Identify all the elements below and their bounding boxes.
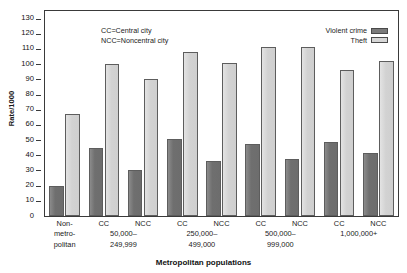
bar-violent-crime [285, 159, 300, 216]
x-axis-range-line: 500,000– [241, 229, 319, 239]
bar-theft [65, 114, 80, 217]
x-axis-category-label: NCC [202, 219, 241, 229]
y-axis-ticks: 1301201101009080706050403020100 [0, 0, 44, 217]
bar-violent-crime [167, 139, 182, 216]
x-axis-range-label: 500,000–999,000 [241, 229, 319, 250]
y-axis-tick-label: 50 [4, 135, 34, 144]
x-axis-range-line: metro- [45, 229, 84, 239]
bar-violent-crime [363, 153, 378, 216]
y-axis-tick: 70 [0, 110, 44, 111]
x-axis-group-categories: Non- [45, 219, 84, 229]
x-axis-category-label: CC [163, 219, 202, 229]
y-axis-tick-mark [36, 95, 41, 96]
y-axis-tick: 130 [0, 19, 44, 20]
x-axis-category-label: NCC [280, 219, 319, 229]
x-axis-group: CCNCC250,000–499,000 [163, 219, 241, 250]
y-axis-tick-mark [36, 140, 41, 141]
x-axis-range-line: 999,000 [241, 240, 319, 250]
x-axis-group-categories: CCNCC [163, 219, 241, 229]
x-axis-range-label: 50,000–249,999 [84, 229, 162, 250]
y-axis-tick-mark [36, 19, 41, 20]
y-axis-tick: 40 [0, 155, 44, 156]
bar-violent-crime [245, 144, 260, 216]
x-axis-range-line: 499,000 [163, 240, 241, 250]
y-axis-tick: 60 [0, 125, 44, 126]
x-axis-group: CCNCC500,000–999,000 [241, 219, 319, 250]
x-axis-group-categories: CCNCC [320, 219, 398, 229]
x-axis-group: CCNCC1,000,000+ [320, 219, 398, 240]
bar-violent-crime [206, 161, 221, 216]
y-axis-tick-mark [36, 170, 41, 171]
x-axis-category-label: CC [241, 219, 280, 229]
chart-figure: Rate/1000 130120110100908070605040302010… [0, 0, 407, 273]
y-axis-tick-mark [36, 186, 41, 187]
y-axis-tick-label: 30 [4, 165, 34, 174]
x-axis-range-label: 250,000–499,000 [163, 229, 241, 250]
x-axis-title: Metropolitan populations [0, 258, 407, 267]
y-axis-tick: 0 [0, 216, 44, 217]
x-axis-group: CCNCC50,000–249,999 [84, 219, 162, 250]
bar-violent-crime [324, 142, 339, 216]
bar-violent-crime [49, 186, 64, 216]
y-axis-tick-mark [36, 110, 41, 111]
bar-theft [379, 61, 394, 216]
y-axis-tick-label: 130 [4, 13, 34, 22]
y-axis-tick: 30 [0, 170, 44, 171]
y-axis-tick-label: 110 [4, 43, 34, 52]
y-axis-tick-label: 80 [4, 89, 34, 98]
x-axis-range-line: 250,000– [163, 229, 241, 239]
y-axis-tick: 20 [0, 186, 44, 187]
y-axis-tick-label: 90 [4, 74, 34, 83]
y-axis-tick-label: 20 [4, 180, 34, 189]
x-axis-category-label: CC [84, 219, 123, 229]
y-axis-tick-label: 120 [4, 28, 34, 37]
y-axis-tick-mark [36, 155, 41, 156]
bar-violent-crime [128, 170, 143, 216]
y-axis-tick-label: 70 [4, 104, 34, 113]
y-axis-tick-label: 40 [4, 150, 34, 159]
y-axis-tick-mark [36, 201, 41, 202]
y-axis-tick-label: 10 [4, 195, 34, 204]
bars-layer [45, 11, 398, 216]
y-axis-tick: 100 [0, 64, 44, 65]
y-axis-tick-mark [36, 79, 41, 80]
y-axis-tick: 110 [0, 49, 44, 50]
y-axis-tick: 90 [0, 79, 44, 80]
bar-theft [301, 47, 316, 216]
bar-theft [340, 70, 355, 216]
bar-violent-crime [89, 148, 104, 216]
y-axis-tick-label: 100 [4, 59, 34, 68]
x-axis-labels: Non-metro-politanCCNCC50,000–249,999CCNC… [45, 219, 398, 259]
y-axis-tick-mark [36, 34, 41, 35]
bar-theft [261, 47, 276, 216]
y-axis-tick: 50 [0, 140, 44, 141]
bar-theft [183, 52, 198, 216]
x-axis-category-label: CC [320, 219, 359, 229]
y-axis-tick: 120 [0, 34, 44, 35]
y-axis-tick-label: 0 [4, 211, 34, 220]
x-axis-group: Non-metro-politan [45, 219, 84, 250]
x-axis-category-label: Non- [45, 219, 84, 229]
y-axis-tick-mark [36, 49, 41, 50]
y-axis-tick-mark [36, 125, 41, 126]
y-axis-tick-mark [36, 64, 41, 65]
x-axis-range-line: 249,999 [84, 240, 162, 250]
bar-theft [222, 63, 237, 216]
bar-theft [144, 79, 159, 216]
x-axis-range-line: politan [45, 240, 84, 250]
x-axis-category-label: NCC [359, 219, 398, 229]
x-axis-range-line: 1,000,000+ [320, 229, 398, 239]
bar-theft [105, 64, 120, 216]
x-axis-range-label: metro-politan [45, 229, 84, 250]
y-axis-tick-label: 60 [4, 119, 34, 128]
y-axis-tick: 10 [0, 201, 44, 202]
x-axis-range-line: 50,000– [84, 229, 162, 239]
x-axis-group-categories: CCNCC [241, 219, 319, 229]
x-axis-range-label: 1,000,000+ [320, 229, 398, 239]
y-axis-tick: 80 [0, 95, 44, 96]
x-axis-group-categories: CCNCC [84, 219, 162, 229]
x-axis-category-label: NCC [123, 219, 162, 229]
